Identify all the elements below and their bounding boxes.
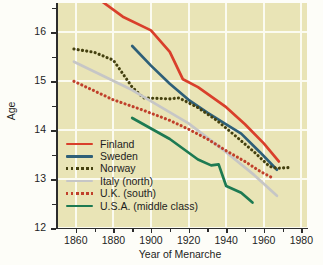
y-axis-title: Age — [5, 91, 17, 131]
legend-label: Sweden — [100, 151, 138, 162]
x-tick — [76, 228, 78, 233]
legend: FinlandSwedenNorwayItaly (north)U.K. (so… — [66, 138, 198, 212]
y-tick-label: 15 — [16, 74, 46, 86]
x-tick-minor — [170, 228, 172, 232]
x-tick-label: 1880 — [93, 234, 133, 246]
x-tick-minor — [245, 228, 247, 232]
legend-swatch-u-k-south — [66, 188, 93, 199]
y-tick-label: 12 — [16, 221, 46, 233]
y-tick — [51, 179, 56, 181]
y-tick — [51, 32, 56, 34]
y-tick-label: 14 — [16, 123, 46, 135]
y-tick — [51, 81, 56, 83]
x-tick-minor — [95, 228, 97, 232]
x-tick-minor — [283, 228, 285, 232]
x-tick-minor — [132, 228, 134, 232]
y-tick — [51, 228, 56, 230]
y-tick-label: 13 — [16, 172, 46, 184]
x-tick — [226, 228, 228, 233]
legend-swatch-norway — [66, 163, 93, 174]
chart-figure: 1213141516 1860188019001920194019601980 … — [0, 0, 323, 265]
legend-label: Italy (north) — [100, 176, 153, 187]
y-tick-minor — [52, 155, 56, 157]
legend-item[interactable]: U.S.A. (middle class) — [66, 200, 198, 212]
y-tick-minor — [52, 8, 56, 10]
x-tick-label: 1860 — [56, 234, 96, 246]
legend-swatch-sweden — [66, 151, 93, 162]
y-tick-minor — [52, 57, 56, 59]
x-tick — [113, 228, 115, 233]
legend-label: U.S.A. (middle class) — [100, 201, 198, 212]
legend-item[interactable]: U.K. (south) — [66, 188, 198, 200]
legend-swatch-u-s-a-middle-class — [66, 201, 93, 212]
x-tick — [264, 228, 266, 233]
legend-swatch-finland — [66, 139, 93, 150]
y-tick-minor — [52, 106, 56, 108]
x-tick — [151, 228, 153, 233]
x-tick — [301, 228, 303, 233]
x-tick-minor — [207, 228, 209, 232]
y-tick-minor — [52, 204, 56, 206]
legend-item[interactable]: Italy (north) — [66, 175, 198, 187]
legend-item[interactable]: Sweden — [66, 150, 198, 162]
x-tick-label: 1960 — [244, 234, 284, 246]
x-tick-label: 1900 — [131, 234, 171, 246]
legend-label: Norway — [100, 163, 136, 174]
x-tick — [189, 228, 191, 233]
y-axis-line — [56, 3, 58, 229]
x-axis-title: Year of Menarche — [110, 248, 250, 260]
legend-label: U.K. (south) — [100, 188, 156, 199]
legend-swatch-italy-north — [66, 176, 93, 187]
x-tick-label: 1920 — [169, 234, 209, 246]
x-tick-label: 1940 — [206, 234, 246, 246]
y-tick-label: 16 — [16, 25, 46, 37]
legend-item[interactable]: Finland — [66, 138, 198, 150]
x-tick-label: 1980 — [281, 234, 321, 246]
y-tick — [51, 130, 56, 132]
legend-item[interactable]: Norway — [66, 163, 198, 175]
legend-label: Finland — [100, 139, 134, 150]
